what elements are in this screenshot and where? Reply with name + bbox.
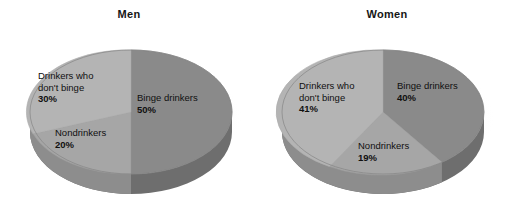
pie-chart-women [258,0,516,200]
pie-chart-figure: Men Drinkers [0,0,517,200]
chart-panel-men: Men Drinkers [0,0,258,200]
pie-chart-men [0,0,258,200]
chart-panel-women: Women Drinkers who don't binge [258,0,516,200]
